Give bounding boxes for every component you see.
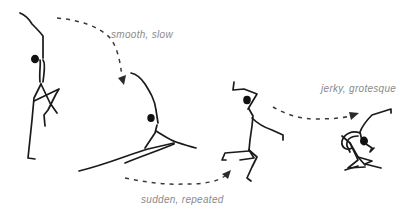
stick-figure-3 — [222, 82, 283, 181]
label-sudden-repeated: sudden, repeated — [141, 194, 224, 205]
figure-1-torso — [40, 60, 45, 82]
arrow-2 — [125, 170, 231, 184]
figure-2-torso — [145, 125, 157, 148]
label-smooth-slow: smooth, slow — [111, 29, 173, 40]
figure-4-arm-bent — [366, 144, 374, 152]
figure-2-front-leg — [79, 143, 174, 171]
figure-1-knee-up — [34, 89, 59, 126]
figure-2-raised-arm — [131, 73, 158, 123]
stick-figure-1 — [20, 13, 59, 159]
stick-figure-2 — [79, 73, 196, 171]
arrow-3-path — [273, 107, 350, 119]
arrow-2-path — [125, 176, 225, 184]
figure-4-leg-front — [358, 157, 381, 168]
arrow-3-head — [349, 112, 359, 120]
figure-4-raised-arm — [360, 109, 391, 141]
movement-diagram: smooth, slow sudden, repeated jerky, gro… — [0, 0, 413, 213]
figure-1-head — [31, 55, 39, 64]
figure-3-arm — [252, 118, 283, 140]
figure-1-raised-arm — [20, 13, 43, 58]
figure-4-leg-back — [348, 143, 365, 168]
label-jerky-grotesque: jerky, grotesque — [319, 83, 396, 94]
arrow-1-path — [57, 18, 122, 77]
figure-3-raised-arm — [233, 82, 257, 109]
figure-2-head — [147, 114, 154, 122]
figure-3-torso — [249, 109, 253, 150]
stick-figure-4 — [342, 109, 391, 170]
figure-1-leg-left — [28, 84, 41, 159]
arrow-3 — [273, 107, 359, 120]
arrow-1-head — [118, 75, 126, 85]
figure-3-head — [243, 96, 251, 104]
